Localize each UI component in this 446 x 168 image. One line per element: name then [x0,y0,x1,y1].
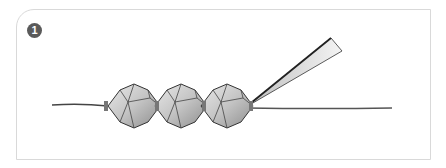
spacer [104,101,108,111]
bead-3-icon [201,84,253,128]
spacer [249,101,253,111]
wire-right [246,108,392,109]
wire [52,104,108,106]
spacer [202,101,206,111]
bead-1-icon [108,84,160,128]
spacer [155,101,159,111]
needle-tool-icon [246,38,342,107]
beading-illustration [0,0,446,168]
bead-2-icon [155,84,207,128]
